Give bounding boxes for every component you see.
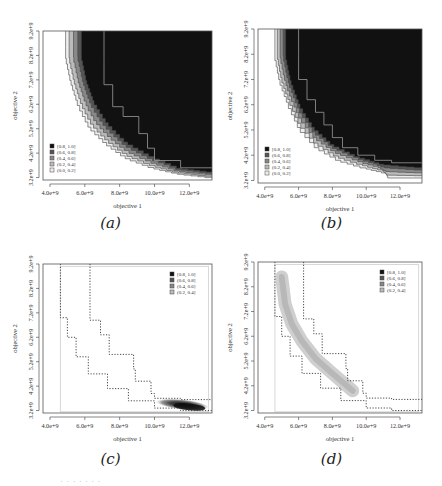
y-axis: 3.2e+94.2e+95.2e+96.2e+97.2e+98.2e+99.2e…	[11, 22, 39, 186]
x-tick-label: 12.0e+9	[390, 192, 410, 199]
legend-swatch	[265, 147, 269, 151]
y-tick-label: 9.2e+9	[27, 22, 34, 39]
y-tick-label: 7.2e+9	[242, 303, 249, 320]
x-tick-label: 12.0e+9	[179, 422, 199, 429]
plot-area	[275, 4, 439, 178]
x-axis-label: objective 1	[326, 435, 355, 442]
y-tick-label: 9.2e+9	[27, 255, 34, 272]
legend-swatch	[265, 153, 269, 157]
legend-swatch	[265, 159, 269, 163]
y-tick-label: 6.2e+9	[27, 329, 34, 346]
chart-c: 4.0e+96.0e+98.0e+910.0e+912.0e+9objectiv…	[0, 240, 221, 455]
x-tick-label: 6.0e+9	[76, 189, 93, 196]
legend-swatch	[170, 284, 174, 288]
y-tick-label: 4.2e+9	[27, 145, 34, 162]
y-tick-label: 8.2e+9	[242, 278, 249, 295]
y-tick-label: 5.2e+9	[27, 353, 34, 370]
legend-label: (0.0, 0.2]	[272, 171, 291, 177]
legend-swatch	[170, 278, 174, 282]
x-tick-label: 6.0e+9	[76, 422, 93, 429]
legend: [0.8, 1.0](0.6, 0.8](0.4, 0.6](0.2, 0.4]…	[50, 144, 76, 174]
x-tick-label: 8.0e+9	[324, 192, 341, 199]
x-axis: 4.0e+96.0e+98.0e+910.0e+912.0e+9objectiv…	[256, 417, 410, 442]
y-axis: 3.2e+94.2e+95.2e+96.2e+97.2e+98.2e+99.2e…	[226, 20, 254, 189]
y-axis: 3.2e+94.2e+95.2e+96.2e+97.2e+98.2e+99.2e…	[226, 253, 254, 419]
legend: [0.8, 1.0](0.6, 0.8](0.4, 0.6](0.2, 0.4]	[170, 272, 196, 296]
x-tick-label: 8.0e+9	[111, 189, 128, 196]
panel-b: 4.0e+96.0e+98.0e+910.0e+912.0e+9objectiv…	[221, 0, 442, 240]
y-axis-label: objective 2	[11, 91, 18, 120]
x-axis: 4.0e+96.0e+98.0e+910.0e+912.0e+9objectiv…	[256, 187, 410, 212]
y-tick-label: 5.2e+9	[27, 120, 34, 137]
y-tick-label: 4.2e+9	[242, 147, 249, 164]
x-tick-label: 10.0e+9	[144, 422, 164, 429]
y-tick-label: 7.2e+9	[27, 304, 34, 321]
legend-label: (0.2, 0.4]	[387, 288, 406, 294]
caption-d: (d)	[221, 450, 442, 468]
x-tick-label: 8.0e+9	[111, 422, 128, 429]
plot-area	[66, 7, 221, 178]
x-axis-label: objective 1	[326, 205, 355, 212]
x-tick-label: 6.0e+9	[290, 192, 307, 199]
legend-swatch	[380, 276, 384, 280]
y-tick-label: 7.2e+9	[27, 71, 34, 88]
y-tick-label: 8.2e+9	[27, 47, 34, 64]
caption-a: (a)	[0, 214, 221, 232]
y-axis-label: objective 2	[226, 92, 233, 121]
y-tick-label: 9.2e+9	[242, 20, 249, 37]
legend-swatch	[265, 165, 269, 169]
x-tick-label: 8.0e+9	[324, 422, 341, 429]
y-tick-label: 3.2e+9	[27, 402, 34, 419]
chart-a: 4.0e+96.0e+98.0e+910.0e+912.0e+9objectiv…	[0, 0, 221, 215]
panel-a: 4.0e+96.0e+98.0e+910.0e+912.0e+9objectiv…	[0, 0, 221, 240]
x-axis-label: objective 1	[113, 435, 142, 442]
legend-swatch	[170, 290, 174, 294]
y-tick-label: 7.2e+9	[242, 71, 249, 88]
x-tick-label: 10.0e+9	[356, 422, 376, 429]
legend-swatch	[50, 144, 54, 148]
x-tick-label: 4.0e+9	[256, 422, 273, 429]
legend-swatch	[50, 168, 54, 172]
x-axis: 4.0e+96.0e+98.0e+910.0e+912.0e+9objectiv…	[41, 184, 199, 209]
y-tick-label: 3.2e+9	[242, 172, 249, 189]
y-tick-label: 8.2e+9	[27, 280, 34, 297]
panel-c: 4.0e+96.0e+98.0e+910.0e+912.0e+9objectiv…	[0, 240, 221, 486]
legend-swatch	[170, 272, 174, 276]
y-tick-label: 8.2e+9	[242, 46, 249, 63]
x-tick-label: 10.0e+9	[144, 189, 164, 196]
y-tick-label: 3.2e+9	[27, 169, 34, 186]
legend-swatch	[380, 270, 384, 274]
legend-label: (0.0, 0.2]	[57, 168, 76, 174]
legend: [0.8, 1.0](0.6, 0.8](0.4, 0.6](0.2, 0.4]…	[265, 147, 291, 177]
legend-swatch	[50, 162, 54, 166]
y-tick-label: 6.2e+9	[242, 328, 249, 345]
y-tick-label: 5.2e+9	[242, 352, 249, 369]
y-axis-label: objective 2	[11, 324, 18, 353]
x-tick-label: 4.0e+9	[41, 189, 58, 196]
x-tick-label: 4.0e+9	[41, 422, 58, 429]
x-tick-label: 4.0e+9	[256, 192, 273, 199]
y-tick-label: 6.2e+9	[242, 96, 249, 113]
x-axis-label: objective 1	[113, 202, 142, 209]
legend-swatch	[50, 156, 54, 160]
legend-swatch	[265, 171, 269, 175]
y-tick-label: 4.2e+9	[242, 377, 249, 394]
legend-swatch	[380, 282, 384, 286]
legend-swatch	[380, 288, 384, 292]
x-tick-label: 6.0e+9	[290, 422, 307, 429]
legend-swatch	[50, 150, 54, 154]
panel-d: 4.0e+96.0e+98.0e+910.0e+912.0e+9objectiv…	[221, 240, 442, 486]
x-tick-label: 10.0e+9	[356, 192, 376, 199]
legend: [0.8, 1.0](0.6, 0.8](0.4, 0.6](0.2, 0.4]	[380, 270, 406, 294]
x-tick-label: 12.0e+9	[390, 422, 410, 429]
y-tick-label: 9.2e+9	[242, 253, 249, 270]
legend-label: (0.2, 0.4]	[177, 290, 196, 296]
y-tick-label: 6.2e+9	[27, 96, 34, 113]
y-tick-label: 5.2e+9	[242, 121, 249, 138]
y-axis: 3.2e+94.2e+95.2e+96.2e+97.2e+98.2e+99.2e…	[11, 255, 39, 419]
chart-b: 4.0e+96.0e+98.0e+910.0e+912.0e+9objectiv…	[221, 0, 442, 215]
caption-b: (b)	[221, 214, 442, 232]
x-axis: 4.0e+96.0e+98.0e+910.0e+912.0e+9objectiv…	[41, 417, 199, 442]
cropped-caption-text: · · · · · · ·	[0, 474, 442, 486]
attainment-difference-band	[282, 277, 353, 391]
